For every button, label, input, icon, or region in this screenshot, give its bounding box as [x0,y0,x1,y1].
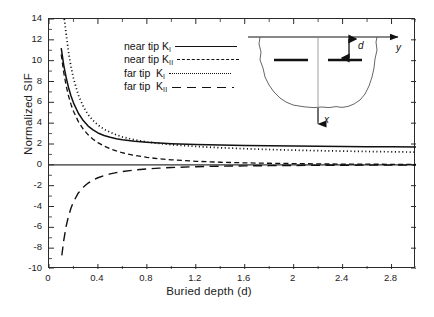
legend-item-swatch [172,82,234,94]
legend-item-label: far tip KI [124,67,165,82]
legend-item-label: near tip KI [124,40,171,55]
y-tick-label: 2 [12,138,42,147]
inset-y-axis-label: y [396,42,401,53]
x-tick-label: 0 [33,273,63,282]
x-tick-label: 2.8 [376,273,406,282]
legend-item-swatch [177,54,239,66]
y-tick-label: -4 [12,201,42,210]
y-tick-label: 4 [12,117,42,126]
y-tick-label: 8 [12,76,42,85]
x-axis-title: Buried depth (d) [0,285,434,297]
x-tick-label: 2 [278,273,308,282]
y-tick-label: 12 [12,34,42,43]
legend-item: far tip KI [124,67,239,81]
legend-item-swatch [169,68,231,80]
x-tick-label: 1.6 [229,273,259,282]
y-tick-label: 10 [12,55,42,64]
x-tick-label: 0.8 [131,273,161,282]
legend-item: far tip KII [124,81,239,95]
x-axis-title-text: Buried depth (d) [166,285,252,297]
inset-x-axis-label: x [324,114,329,125]
legend-item-label: near tip KII [124,53,173,68]
x-tick-label: 1.2 [180,273,210,282]
inset-diagram: d y x [236,22,416,140]
y-tick-label: 0 [12,159,42,168]
y-tick-label: 6 [12,96,42,105]
y-tick-label: -10 [12,263,42,272]
inset-depth-label: d [358,40,364,51]
y-tick-label: 14 [12,13,42,22]
y-tick-label: -6 [12,221,42,230]
y-tick-label: -2 [12,180,42,189]
y-tick-label: -8 [12,242,42,251]
figure-root: Normalized SIF -10-8-6-4-20246810121400.… [0,0,434,317]
legend: near tip KInear tip KIIfar tip KIfar tip… [124,40,239,94]
x-tick-label: 2.4 [327,273,357,282]
legend-item-label: far tip KII [124,80,168,95]
series-line-4 [62,165,416,255]
x-tick-label: 0.4 [82,273,112,282]
legend-item: near tip KI [124,40,239,54]
legend-item: near tip KII [124,54,239,68]
legend-item-swatch [175,41,237,53]
